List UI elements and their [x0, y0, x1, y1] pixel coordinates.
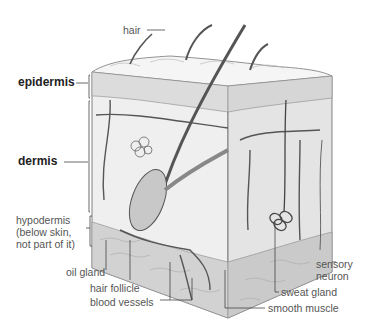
label-dermis: dermis: [18, 155, 57, 167]
label-hypodermis: hypodermis (below skin, not part of it): [16, 214, 75, 250]
label-hair-follicle: hair follicle: [90, 282, 140, 294]
label-blood-vessels: blood vessels: [90, 296, 154, 308]
label-epidermis: epidermis: [18, 76, 75, 88]
label-oil-gland: oil gland: [66, 266, 105, 278]
label-sensory-neuron: sensory neuron: [316, 258, 353, 282]
label-smooth-muscle: smooth muscle: [268, 302, 339, 314]
label-sweat-gland: sweat gland: [281, 286, 337, 298]
label-hair: hair: [123, 24, 141, 36]
